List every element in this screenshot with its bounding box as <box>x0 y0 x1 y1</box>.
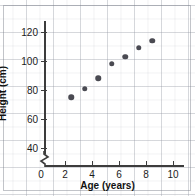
y-tick-label-40: 40 <box>12 143 38 154</box>
y-axis-line <box>44 21 46 154</box>
x-tick-label-0: 0 <box>38 169 44 180</box>
x-tick-10 <box>173 161 174 166</box>
x-tick-label-2: 2 <box>62 169 68 180</box>
x-tick-8 <box>146 161 147 166</box>
y-tick-label-60: 60 <box>12 114 38 125</box>
y-axis-title: Height (cm) <box>0 66 8 121</box>
data-point <box>82 86 88 92</box>
y-tick-60 <box>41 119 47 120</box>
y-tick-40 <box>41 148 47 149</box>
x-tick-label-8: 8 <box>143 169 149 180</box>
data-point <box>68 95 74 101</box>
x-tick-label-6: 6 <box>116 169 122 180</box>
plot-area: 40 60 80 100 120 0 2 4 6 8 10 Age (years… <box>0 0 195 196</box>
x-axis-title: Age (years) <box>80 180 134 191</box>
data-point <box>109 61 115 67</box>
scatter-plot-figure: 40 60 80 100 120 0 2 4 6 8 10 Age (years… <box>0 0 195 196</box>
y-tick-label-120: 120 <box>12 27 38 38</box>
y-axis-break-icon <box>38 150 52 168</box>
x-tick-6 <box>119 161 120 166</box>
y-tick-120 <box>41 32 47 33</box>
data-point <box>136 45 142 51</box>
y-tick-80 <box>41 90 47 91</box>
y-tick-label-80: 80 <box>12 85 38 96</box>
data-point <box>149 38 155 44</box>
x-tick-2 <box>65 161 66 166</box>
y-tick-100 <box>41 61 47 62</box>
y-tick-label-100: 100 <box>12 56 38 67</box>
x-tick-label-4: 4 <box>89 169 95 180</box>
x-tick-4 <box>92 161 93 166</box>
data-point <box>122 54 128 60</box>
data-point <box>95 76 101 82</box>
x-tick-label-10: 10 <box>167 169 178 180</box>
